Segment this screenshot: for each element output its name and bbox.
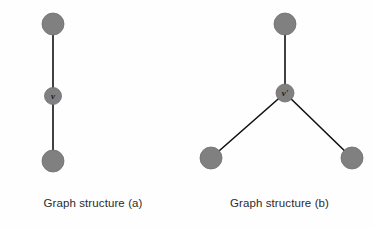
graph-node: [42, 13, 64, 35]
graph-edge: [285, 93, 352, 158]
graph-a-caption: Graph structure (a): [0, 197, 186, 209]
graph-node: [341, 147, 363, 169]
graph-node: [200, 147, 222, 169]
graph-edge: [211, 93, 285, 158]
graph-b-canvas: v': [186, 0, 373, 190]
graph-panel-b: v' Graph structure (b): [186, 0, 373, 228]
graph-b-caption: Graph structure (b): [186, 197, 373, 209]
graph-node: [42, 150, 64, 172]
graph-node: [274, 13, 296, 35]
graph-panel-a: v Graph structure (a): [0, 0, 186, 228]
graph-a-canvas: v: [0, 0, 186, 190]
graph-structure-figure: v Graph structure (a) v' Graph structure…: [0, 0, 373, 228]
graph-node-label: v': [282, 88, 289, 98]
